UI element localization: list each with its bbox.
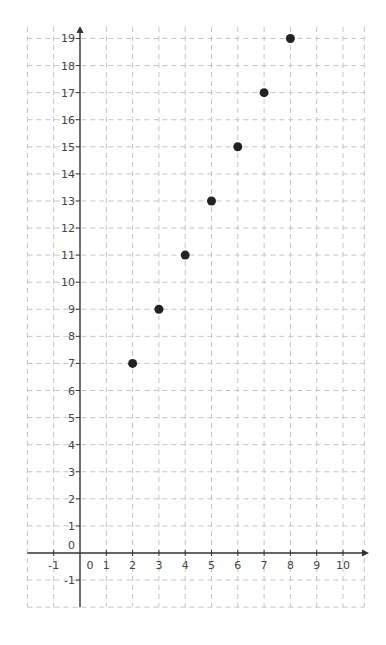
- x-tick-labels: -1012345678910: [48, 559, 350, 572]
- y-tick-label: -1: [64, 574, 75, 587]
- y-tick-label: 2: [68, 493, 75, 506]
- y-tick-label: 0: [68, 539, 75, 552]
- y-tick-label: 6: [68, 385, 75, 398]
- y-tick-label: 12: [61, 222, 75, 235]
- y-tick-label: 7: [68, 357, 75, 370]
- y-tick-label: 16: [61, 114, 75, 127]
- data-point: [260, 88, 269, 97]
- x-axis-arrow-icon: [362, 550, 369, 557]
- data-point: [207, 196, 216, 205]
- x-tick-label: 2: [129, 559, 136, 572]
- y-tick-label: 3: [68, 466, 75, 479]
- x-tick-label: 9: [313, 559, 320, 572]
- y-tick-label: 10: [61, 276, 75, 289]
- y-tick-label: 9: [68, 303, 75, 316]
- x-tick-label: 7: [261, 559, 268, 572]
- data-point: [286, 34, 295, 43]
- data-point: [154, 305, 163, 314]
- x-tick-label: 5: [208, 559, 215, 572]
- y-tick-label: 5: [68, 412, 75, 425]
- x-tick-label: 3: [155, 559, 162, 572]
- y-tick-label: 19: [61, 32, 75, 45]
- y-tick-label: 1: [68, 520, 75, 533]
- grid-lines: [27, 27, 364, 607]
- y-tick-label: 15: [61, 141, 75, 154]
- data-point: [233, 142, 242, 151]
- x-tick-label: -1: [48, 559, 59, 572]
- x-tick-label: 0: [87, 559, 94, 572]
- x-tick-label: 8: [287, 559, 294, 572]
- y-tick-label: 8: [68, 330, 75, 343]
- data-point: [181, 251, 190, 260]
- y-tick-label: 18: [61, 60, 75, 73]
- x-tick-label: 4: [182, 559, 189, 572]
- y-axis-arrow-icon: [77, 26, 84, 33]
- x-tick-label: 6: [234, 559, 241, 572]
- x-tick-label: 1: [103, 559, 110, 572]
- scatter-chart: -1012345678910 -101234567891011121314151…: [0, 0, 386, 645]
- y-tick-label: 14: [61, 168, 75, 181]
- data-point: [128, 359, 137, 368]
- y-tick-label: 11: [61, 249, 75, 262]
- x-tick-label: 10: [336, 559, 350, 572]
- y-tick-label: 4: [68, 439, 75, 452]
- axes: [27, 26, 369, 607]
- y-tick-labels: -1012345678910111213141516171819: [61, 32, 75, 587]
- y-tick-label: 13: [61, 195, 75, 208]
- y-tick-label: 17: [61, 87, 75, 100]
